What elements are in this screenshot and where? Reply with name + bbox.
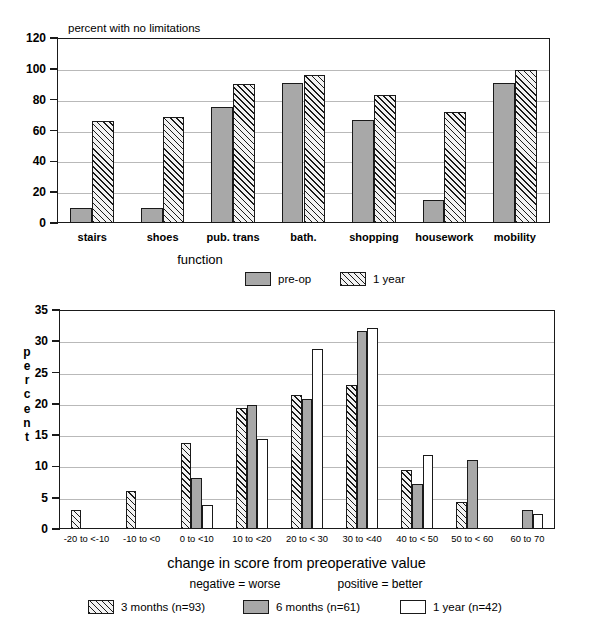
y-tick-label: 5 [0, 492, 48, 504]
bar [346, 385, 357, 529]
y-tick-mark [50, 68, 58, 70]
bar [181, 443, 192, 529]
y-tick-mark [52, 434, 60, 436]
change-score-chart: percent 05101520253035 -20 to <-10-10 to… [0, 300, 593, 633]
gridline [58, 70, 549, 71]
y-tick-label: 10 [0, 460, 48, 472]
bar [312, 349, 323, 529]
y-tick-label: 35 [0, 304, 48, 316]
legend-label: 1 year [373, 273, 405, 285]
y-tick-label: 80 [0, 94, 46, 106]
bar [533, 514, 544, 529]
legend-swatch [88, 600, 114, 614]
bar [247, 405, 258, 529]
bar [522, 510, 533, 529]
y-tick-mark [50, 191, 58, 193]
bar [71, 510, 82, 529]
y-tick-label: 100 [0, 63, 46, 75]
bar [493, 83, 515, 223]
bar [70, 208, 92, 223]
top-axis-title: function [0, 252, 400, 267]
top-chart-caption: percent with no limitations [68, 22, 200, 34]
y-tick-label: 40 [0, 155, 46, 167]
bar [191, 478, 202, 529]
legend-swatch [400, 600, 426, 614]
y-tick-label: 25 [0, 367, 48, 379]
legend-item: 1 year (n=42) [400, 600, 502, 614]
bar [515, 70, 537, 223]
bar [304, 75, 326, 223]
y-tick-label: 120 [0, 32, 46, 44]
y-tick-mark [50, 130, 58, 132]
y-tick-mark [50, 161, 58, 163]
bar [367, 328, 378, 529]
y-tick-mark [52, 309, 60, 311]
y-tick-label: 0 [0, 217, 46, 229]
y-tick-mark [52, 497, 60, 499]
bar [412, 484, 423, 529]
bar [352, 120, 374, 223]
legend-label: 3 months (n=93) [121, 601, 205, 613]
bar [456, 502, 467, 529]
bar [211, 107, 233, 223]
bar [374, 95, 396, 223]
bar [257, 439, 268, 529]
y-tick-mark [52, 466, 60, 468]
y-tick-label: 20 [0, 398, 48, 410]
y-tick-mark [50, 37, 58, 39]
legend-label: pre-op [278, 273, 311, 285]
bar [141, 208, 163, 223]
bar [126, 491, 137, 529]
y-axis-label-letter: n [20, 416, 34, 430]
gridline [60, 342, 554, 343]
y-tick-label: 30 [0, 335, 48, 347]
legend-label: 1 year (n=42) [433, 601, 502, 613]
y-tick-label: 15 [0, 429, 48, 441]
bar [233, 84, 255, 223]
y-tick-mark [50, 99, 58, 101]
bar [236, 408, 247, 529]
y-tick-mark [50, 222, 58, 224]
bar [444, 112, 466, 223]
legend-swatch [243, 600, 269, 614]
legend-swatch [340, 272, 366, 286]
function-chart: percent with no limitations 020406080100… [0, 0, 593, 300]
y-tick-label: 60 [0, 125, 46, 137]
y-tick-mark [52, 403, 60, 405]
bar [291, 395, 302, 529]
legend-label: 6 months (n=61) [276, 601, 360, 613]
bottom-axis-subtitle-left: negative = worse [155, 577, 315, 591]
y-tick-mark [52, 528, 60, 530]
x-category-label: 60 to 70 [481, 534, 575, 544]
bar [282, 83, 304, 223]
legend-item: 1 year [340, 272, 405, 286]
bar [423, 455, 434, 529]
x-category-label: mobility [455, 231, 575, 243]
y-tick-mark [52, 340, 60, 342]
bar [423, 200, 445, 223]
bar [357, 331, 368, 529]
bar [92, 121, 114, 223]
y-tick-label: 20 [0, 186, 46, 198]
bar [401, 470, 412, 529]
bottom-axis-subtitle-right: positive = better [300, 577, 460, 591]
bar [202, 505, 213, 529]
bar [302, 399, 313, 529]
legend-item: 6 months (n=61) [243, 600, 360, 614]
legend-item: pre-op [245, 272, 311, 286]
legend-item: 3 months (n=93) [88, 600, 205, 614]
bar [467, 460, 478, 529]
legend-swatch [245, 272, 271, 286]
gridline [60, 374, 554, 375]
bar [163, 117, 185, 223]
bottom-axis-title: change in score from preoperative value [0, 555, 593, 571]
y-tick-mark [52, 372, 60, 374]
